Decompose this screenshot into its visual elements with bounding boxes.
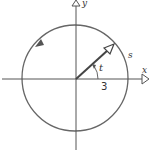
angle-arc [92, 64, 98, 79]
circle-diagram: t 3 s x y [0, 0, 151, 155]
y-axis-arrow-icon [72, 0, 80, 6]
rotation-direction-arrow-icon [35, 39, 44, 47]
radius-label: 3 [101, 81, 107, 92]
x-axis-label: x [142, 65, 147, 75]
radius-vector [76, 44, 114, 79]
angle-label: t [99, 62, 104, 73]
circle [22, 25, 128, 131]
x-axis-arrow-icon [142, 74, 149, 84]
arc-length-label: s [128, 50, 133, 60]
y-axis [72, 0, 80, 150]
y-axis-label: y [81, 0, 88, 8]
